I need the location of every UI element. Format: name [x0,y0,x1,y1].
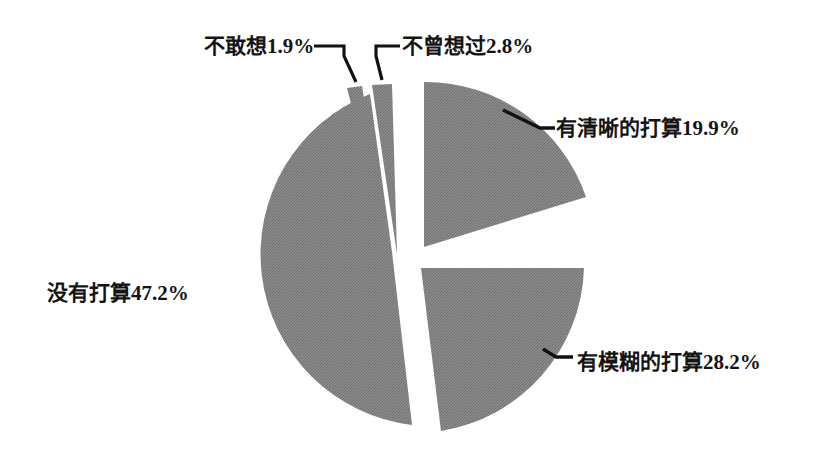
leader-line-buceng [376,46,400,80]
pie-label-meiyou: 没有打算47.2% [47,276,189,306]
pie-slice-qingxi [424,82,586,247]
pie-label-qingxi: 有清晰的打算19.9% [556,111,740,141]
pie-label-buceng: 不曾想过2.8% [402,29,533,59]
pie-chart: 不敢想1.9% 不曾想过2.8% 有清晰的打算19.9% 有模糊的打算28.2%… [0,0,830,450]
pie-slice-mohu [421,268,584,431]
leader-line-bugan [314,46,356,82]
pie-label-bugan: 不敢想1.9% [204,29,314,59]
pie-label-mohu: 有模糊的打算28.2% [577,345,761,375]
pie-chart-graphic [0,0,830,450]
